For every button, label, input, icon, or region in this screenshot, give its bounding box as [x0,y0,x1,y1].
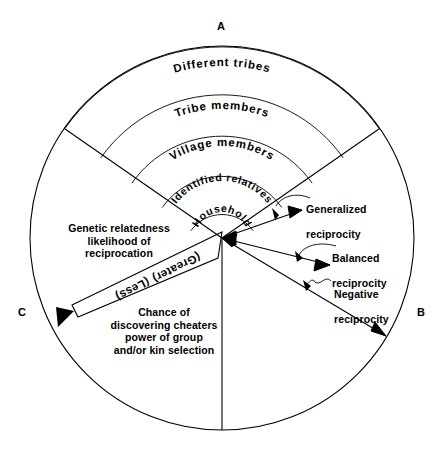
wedge-label-less: (Less) [114,276,152,303]
leader-balanced [299,244,336,255]
ring-label-tribe-members: Tribe members [173,99,271,119]
label-negative-reciprocity: Negative reciprocity [334,275,438,325]
generalized-line-2: reciprocity [306,228,361,240]
negative-line-1: Negative [334,288,379,300]
corner-label-a: A [217,20,225,32]
ring-label-village-members: Village members [167,136,276,162]
ring-label-different-tribes: Different tribes [172,56,272,75]
ring-label-identified-relatives: Identified relatives [168,171,275,205]
diagram-canvas: Different tribes Tribe members Village m… [0,0,441,451]
ring-labels: Different tribes Tribe members Village m… [167,56,276,229]
corner-label-c: C [18,306,26,318]
balanced-line-1: Balanced [332,252,380,264]
negative-line-2: reciprocity [334,313,389,325]
label-generalized-reciprocity: Generalized reciprocity [306,190,418,240]
text-block-genetic-relatedness: Genetic relatedness likelihood of recipr… [34,222,204,260]
text-block-chance-of-discovering: Chance of discovering cheaters power of … [84,306,244,356]
leader-negative [306,279,331,284]
generalized-line-1: Generalized [306,203,367,215]
